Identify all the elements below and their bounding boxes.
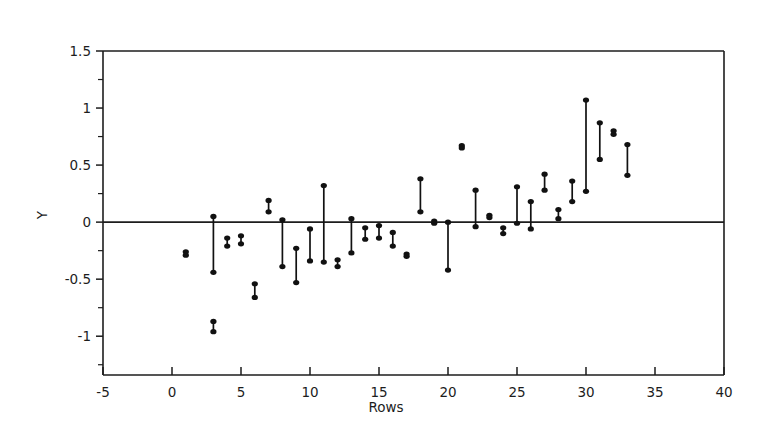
x-tick-label: 10 [301, 384, 318, 400]
range-marker [583, 97, 589, 193]
range-lower-point [321, 259, 327, 264]
range-marker [279, 217, 285, 269]
range-upper-point [210, 319, 216, 324]
x-axis-ticks [103, 367, 724, 375]
x-tick-label: -5 [96, 384, 109, 400]
range-lower-point [404, 254, 410, 259]
chart-root: -1-0.500.511.5 -50510152025303540 Rows Y [0, 0, 772, 438]
y-tick-label: -1 [78, 328, 91, 344]
range-upper-point [348, 216, 354, 221]
y-axis-title: Y [34, 210, 50, 220]
range-upper-point [390, 230, 396, 235]
range-marker [611, 128, 617, 137]
range-lower-point [500, 231, 506, 236]
x-tick-label: 25 [508, 384, 525, 400]
range-upper-point [569, 178, 575, 183]
range-lower-point [583, 189, 589, 194]
range-marker [597, 120, 603, 162]
range-lower-point [266, 209, 272, 214]
x-tick-label: 20 [439, 384, 456, 400]
range-lower-point [335, 264, 341, 269]
range-lower-point [514, 221, 520, 226]
range-upper-point [293, 246, 299, 251]
range-upper-point [321, 183, 327, 188]
range-lower-point [624, 173, 630, 178]
range-lower-point [542, 188, 548, 193]
range-marker [404, 251, 410, 258]
range-upper-point [210, 214, 216, 219]
x-tick-label: 40 [715, 384, 732, 400]
range-upper-point [555, 207, 561, 212]
y-tick-label: 1 [82, 100, 91, 116]
x-axis-title: Rows [368, 399, 403, 415]
range-marker [183, 249, 189, 258]
range-marker [390, 230, 396, 249]
range-upper-point [583, 97, 589, 102]
range-upper-point [514, 184, 520, 189]
range-upper-point [473, 188, 479, 193]
y-axis-tick-labels: -1-0.500.511.5 [65, 43, 91, 344]
range-marker [210, 319, 216, 334]
range-upper-point [224, 235, 230, 240]
range-lower-point [183, 253, 189, 258]
range-marker [376, 223, 382, 241]
range-upper-point [500, 225, 506, 230]
range-lower-point [459, 145, 465, 150]
range-upper-point [417, 176, 423, 181]
y-tick-label: 0 [82, 214, 91, 230]
range-marker [252, 281, 258, 300]
range-lower-point [473, 224, 479, 229]
range-lower-point [210, 270, 216, 275]
range-marker [362, 225, 368, 242]
x-tick-label: 35 [646, 384, 663, 400]
range-upper-point [279, 217, 285, 222]
range-upper-point [362, 225, 368, 230]
range-lower-point [348, 250, 354, 255]
range-lower-point [224, 243, 230, 248]
range-upper-point [238, 233, 244, 238]
range-upper-point [624, 142, 630, 147]
range-lower-point [252, 295, 258, 300]
range-marker [528, 199, 534, 232]
x-tick-label: 5 [237, 384, 246, 400]
x-tick-label: 30 [577, 384, 594, 400]
range-marker [293, 246, 299, 285]
range-marker [321, 183, 327, 265]
range-upper-point [376, 223, 382, 228]
range-upper-point [542, 172, 548, 177]
range-lower-point [445, 267, 451, 272]
range-upper-point [335, 257, 341, 262]
range-marker [555, 207, 561, 221]
range-lower-point [210, 329, 216, 334]
x-tick-label: 15 [370, 384, 387, 400]
range-upper-point [266, 198, 272, 203]
range-upper-point [597, 120, 603, 125]
range-lower-point [362, 237, 368, 242]
range-lower-point [528, 226, 534, 231]
range-marker [431, 218, 437, 225]
range-marker [307, 226, 313, 263]
y-tick-label: -0.5 [65, 271, 91, 287]
range-lower-point [611, 132, 617, 137]
range-series [183, 97, 631, 334]
range-marker [500, 225, 506, 236]
range-lower-point [376, 235, 382, 240]
range-marker [335, 257, 341, 269]
range-lower-point [431, 221, 437, 226]
range-lower-point [597, 157, 603, 162]
range-lower-point [569, 199, 575, 204]
range-marker [459, 143, 465, 150]
range-lower-point [293, 280, 299, 285]
range-marker [266, 198, 272, 215]
range-upper-point [252, 281, 258, 286]
range-lower-point [555, 216, 561, 221]
range-marker [238, 233, 244, 246]
x-tick-label: 0 [168, 384, 177, 400]
axis-frame [103, 51, 724, 375]
range-marker [445, 220, 451, 273]
y-tick-label: 0.5 [70, 157, 91, 173]
range-lower-point [279, 264, 285, 269]
range-lower-point [307, 258, 313, 263]
range-marker [624, 142, 630, 178]
range-lower-point [486, 215, 492, 220]
